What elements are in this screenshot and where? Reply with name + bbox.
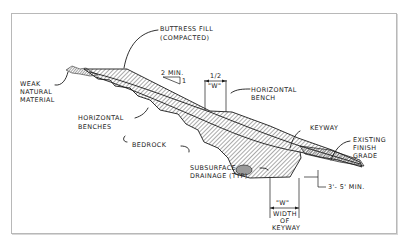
label-buttress-fill-2: (COMPACTED) [160,34,209,42]
label-subsurface-1: SUBSURFACE [190,164,236,172]
label-weak-1: WEAK [20,80,41,88]
label-slope-rise: 1 [182,77,186,85]
label-bedrock: BEDROCK [132,141,167,149]
label-existing-grade-1: EXISTING [353,136,386,144]
label-existing-grade-2: FINISH [353,144,377,152]
label-existing-grade-3: GRADE [353,152,377,160]
label-half: 1/2 [210,72,222,80]
label-weak-2: NATURAL [20,88,52,96]
label-width-of-keyway-3: KEYWAY [272,224,300,232]
label-weak-3: MATERIAL [20,96,55,104]
label-w-small: "W" [208,82,221,90]
label-keyway: KEYWAY [310,124,338,132]
label-keyway-depth: 3'- 5' MIN. [328,183,365,191]
label-slope-ratio: 2 MIN. [161,69,184,77]
label-subsurface-2: DRAINAGE (TYP) [190,172,248,180]
label-w-large: "W" [276,199,289,207]
label-horizontal-benches-2: BENCHES [78,123,111,131]
slope-ratio-triangle [163,77,180,84]
buttress-fill-diagram: BUTTRESS FILL (COMPACTED) WEAK NATURAL M… [0,0,408,247]
label-horizontal-bench-1: HORIZONTAL [251,86,297,94]
label-buttress-fill-1: BUTTRESS FILL [160,25,213,33]
label-horizontal-bench-2: BENCH [251,94,275,102]
label-horizontal-benches-1: HORIZONTAL [78,114,124,122]
